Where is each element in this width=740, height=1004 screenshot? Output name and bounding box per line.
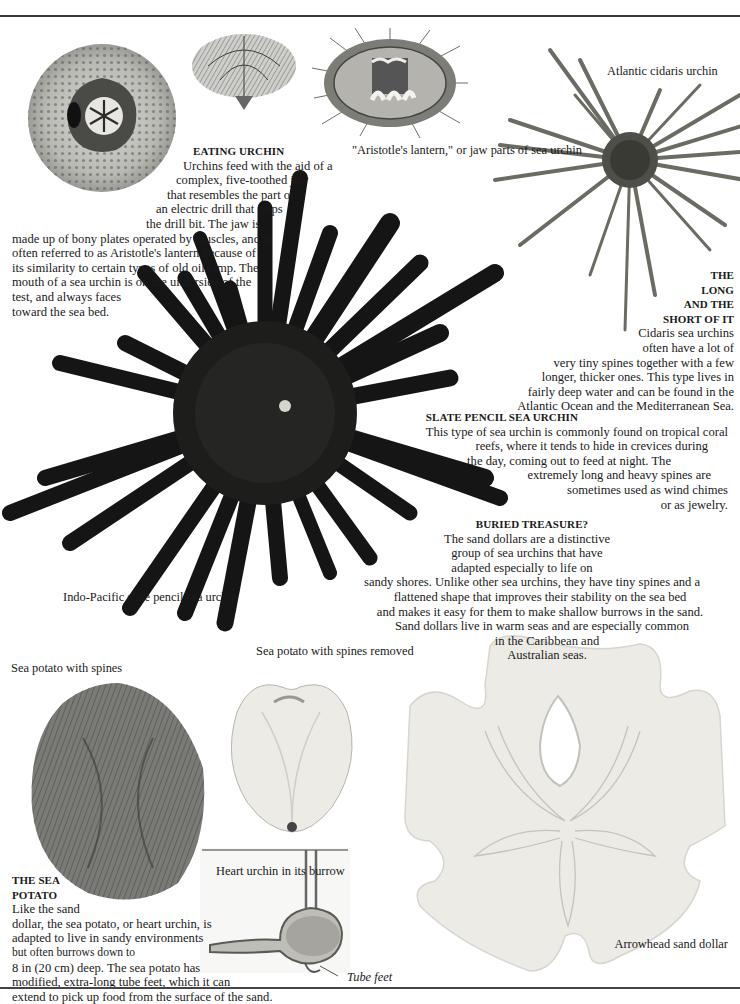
- urchin-side-engraving-figure: [188, 30, 300, 112]
- slate-pencil-block: SLATE PENCIL SEA URCHIN This type of sea…: [426, 410, 728, 512]
- bottom-rule: [0, 987, 740, 989]
- arrowhead-sand-dollar-figure: [390, 626, 735, 981]
- caption-sea-potato-with-spines: Sea potato with spines: [11, 661, 122, 675]
- caption-atlantic-cidaris: Atlantic cidaris urchin: [607, 64, 718, 78]
- aristotles-lantern-figure: [310, 28, 470, 138]
- caption-aristotles-lantern: "Aristotle's lantern," or jaw parts of s…: [352, 143, 432, 157]
- caption-sea-potato-spines-removed: Sea potato with spines removed: [256, 644, 414, 658]
- eating-urchin-block: EATING URCHIN Urchins feed with the aid …: [0, 144, 340, 319]
- sea-potato-spines-removed-figure: [222, 672, 360, 837]
- caption-arrowhead-sand-dollar: Arrowhead sand dollar: [614, 937, 728, 951]
- eating-urchin-heading: EATING URCHIN: [0, 144, 340, 159]
- buried-treasure-block: BURIED TREASURE? The sand dollars are a …: [386, 517, 718, 663]
- caption-indo-pacific: Indo-Pacific slate pencil sea urchin: [63, 590, 237, 604]
- long-and-short-block: THE LONG AND THE SHORT OF IT Cidaris sea…: [517, 268, 734, 414]
- sea-potato-block: THE SEA POTATO Like the sand dollar, the…: [12, 873, 273, 1004]
- caption-tube-feet: Tube feet: [347, 970, 392, 984]
- top-rule: [0, 15, 740, 17]
